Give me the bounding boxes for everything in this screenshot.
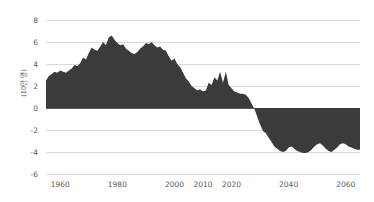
x-tick-label: 2000 xyxy=(165,180,184,189)
y-tick-label: 8 xyxy=(0,16,38,25)
y-tick-label: -6 xyxy=(0,170,38,179)
area-series xyxy=(46,20,360,174)
x-tick-label: 2020 xyxy=(222,180,241,189)
y-tick-label: 6 xyxy=(0,38,38,47)
y-tick-label: -4 xyxy=(0,148,38,157)
x-tick-label: 2060 xyxy=(336,180,355,189)
y-tick-label: 2 xyxy=(0,82,38,91)
y-tick-label: 4 xyxy=(0,60,38,69)
gridline xyxy=(46,174,360,175)
plot-area xyxy=(46,20,360,174)
x-tick-label: 2040 xyxy=(279,180,298,189)
y-tick-label: -2 xyxy=(0,126,38,135)
x-tick-label: 2010 xyxy=(193,180,212,189)
x-tick-label: 1960 xyxy=(51,180,70,189)
y-tick-label: 0 xyxy=(0,104,38,113)
area-fill xyxy=(46,35,360,153)
chart-container: (10만 명) 86420-2-4-6 19601980200020102020… xyxy=(0,0,374,202)
x-tick-label: 1980 xyxy=(108,180,127,189)
